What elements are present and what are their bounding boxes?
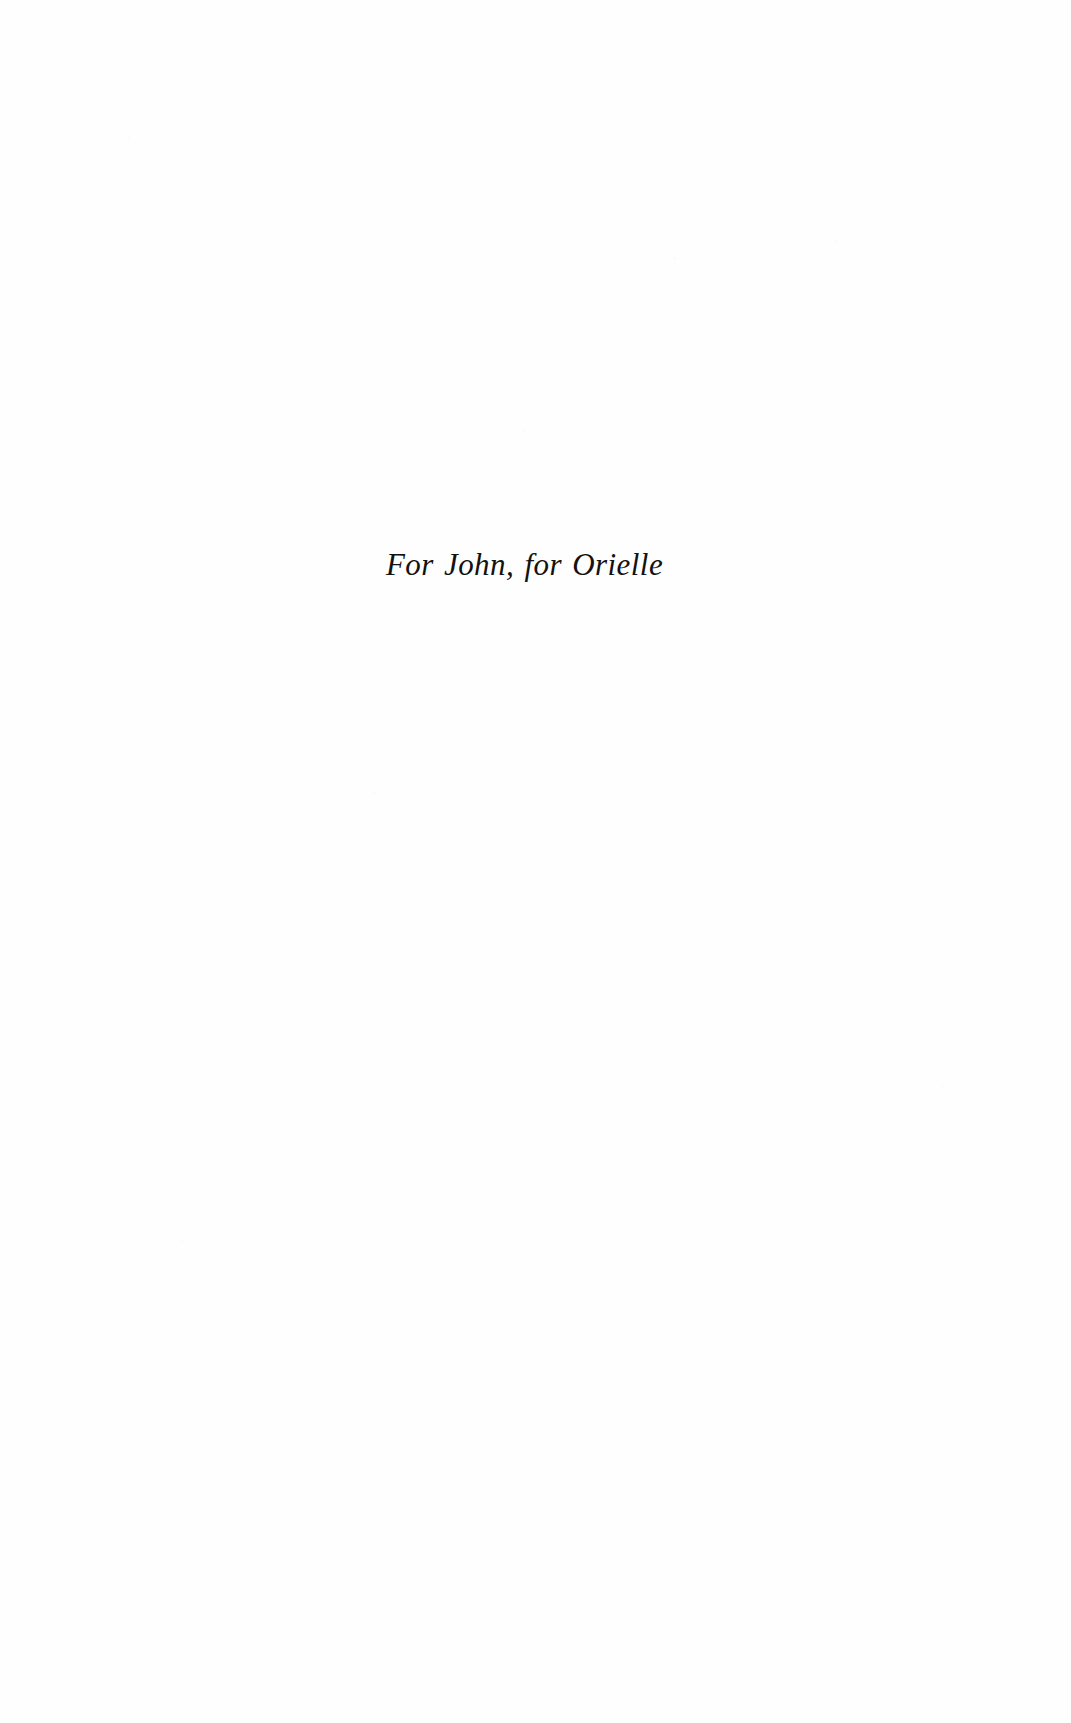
book-page: For John, for Orielle — [0, 0, 1071, 1723]
dedication-text: For John, for Orielle — [386, 545, 663, 585]
dedication-block: For John, for Orielle — [0, 545, 1071, 585]
